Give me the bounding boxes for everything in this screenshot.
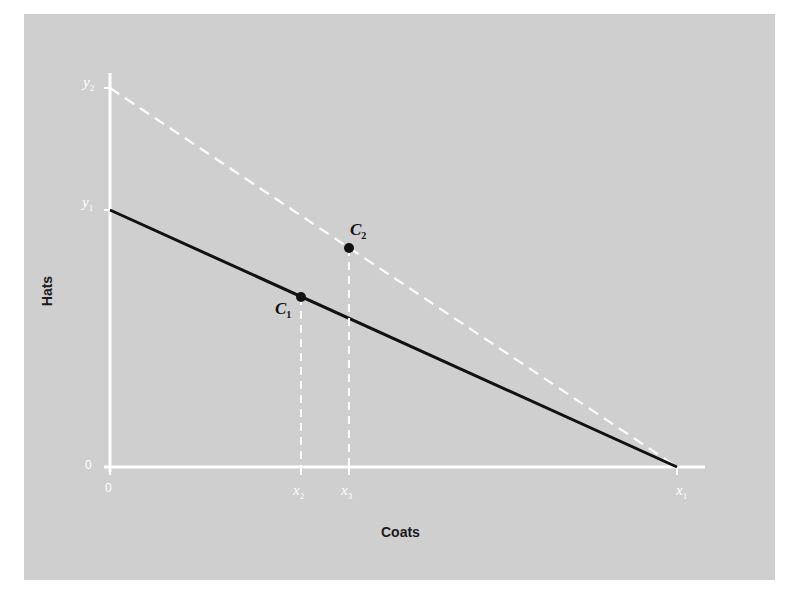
budget-line-plot [0,0,796,593]
y1-label: y1 [82,194,93,213]
x1-sub: 1 [683,491,688,501]
c2-point [344,243,354,253]
c2-label: C2 [350,220,366,241]
x2-label: x2 [293,482,304,501]
x-axis-title: Coats [381,524,420,540]
x2-sub: 2 [300,491,305,501]
c2-base: C [350,220,361,239]
origin-x-label: 0 [105,481,112,495]
y2-label: y2 [83,74,94,93]
origin-y-label: 0 [85,458,92,472]
y-axis-title: Hats [39,266,55,316]
x3-sub: 3 [348,491,353,501]
c1-point [296,292,306,302]
x1-label: x1 [676,482,687,501]
y1-base: y [82,194,89,210]
c1-base: C [275,299,286,318]
y1-sub: 1 [89,203,94,213]
original-budget-line [110,210,677,467]
c1-sub: 1 [286,309,291,320]
x3-label: x3 [341,482,352,501]
c1-label: C1 [275,299,291,320]
y2-base: y [83,74,90,90]
x3-base: x [341,482,348,498]
c2-sub: 2 [361,230,366,241]
new-budget-line [110,88,677,467]
figure-canvas: y2 y1 0 0 x2 x3 x1 C1 C2 Coats Hats [0,0,796,593]
x2-base: x [293,482,300,498]
x1-base: x [676,482,683,498]
y2-sub: 2 [90,83,95,93]
